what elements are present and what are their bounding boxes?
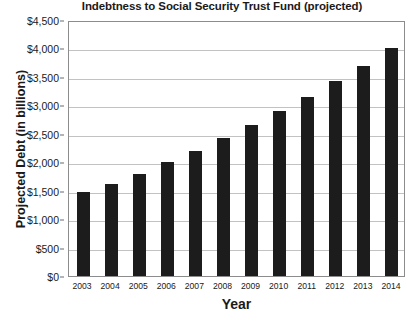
y-tick-label: $0 <box>47 271 59 283</box>
x-tick-label: 2007 <box>185 281 204 291</box>
gridline <box>69 107 404 108</box>
x-tick-label: 2003 <box>72 281 91 291</box>
x-tick-label: 2005 <box>129 281 148 291</box>
x-tick-label: 2012 <box>325 281 344 291</box>
gridline <box>69 164 404 165</box>
y-tick-label: $500 <box>36 243 59 255</box>
y-axis: $0$500$1,000$1,500$2,000$2,500$3,000$3,5… <box>0 21 64 277</box>
y-tick-label: $4,500 <box>27 15 59 27</box>
y-tick-mark <box>60 49 64 50</box>
gridline <box>69 193 404 194</box>
y-tick-mark <box>60 106 64 107</box>
bar <box>329 81 342 276</box>
y-tick-label: $2,500 <box>27 129 59 141</box>
x-tick-label: 2004 <box>101 281 120 291</box>
bar <box>245 125 258 276</box>
x-axis-title: Year <box>68 296 405 312</box>
y-tick-mark <box>60 220 64 221</box>
bar-chart-figure: Indebtness to Social Security Trust Fund… <box>0 0 414 319</box>
bar <box>385 48 398 276</box>
gridline <box>69 136 404 137</box>
bar <box>217 138 230 276</box>
y-tick-mark <box>60 277 64 278</box>
bar <box>273 111 286 276</box>
x-tick-label: 2014 <box>381 281 400 291</box>
bar <box>357 66 370 276</box>
bar <box>105 184 118 276</box>
bar <box>77 192 90 276</box>
bar <box>301 97 314 276</box>
y-tick-label: $4,000 <box>27 43 59 55</box>
x-tick-label: 2010 <box>269 281 288 291</box>
y-tick-mark <box>60 134 64 135</box>
y-tick-mark <box>60 248 64 249</box>
gridline <box>69 79 404 80</box>
gridline <box>69 221 404 222</box>
y-tick-mark <box>60 77 64 78</box>
bar <box>161 162 174 276</box>
x-tick-label: 2006 <box>157 281 176 291</box>
bar <box>189 151 202 276</box>
y-tick-mark <box>60 191 64 192</box>
y-tick-mark <box>60 21 64 22</box>
x-tick-label: 2011 <box>297 281 315 291</box>
x-tick-label: 2008 <box>213 281 232 291</box>
y-tick-label: $1,500 <box>27 186 59 198</box>
x-axis: 2003200420052006200720082009201020112012… <box>68 281 405 295</box>
y-tick-label: $3,000 <box>27 100 59 112</box>
gridline <box>69 250 404 251</box>
x-tick-label: 2009 <box>241 281 260 291</box>
chart-title: Indebtness to Social Security Trust Fund… <box>57 0 387 12</box>
y-tick-label: $1,000 <box>27 214 59 226</box>
y-tick-mark <box>60 163 64 164</box>
bar <box>133 174 146 276</box>
y-tick-label: $2,000 <box>27 157 59 169</box>
gridline <box>69 50 404 51</box>
y-tick-label: $3,500 <box>27 72 59 84</box>
x-tick-label: 2013 <box>353 281 372 291</box>
plot-area <box>68 21 405 277</box>
